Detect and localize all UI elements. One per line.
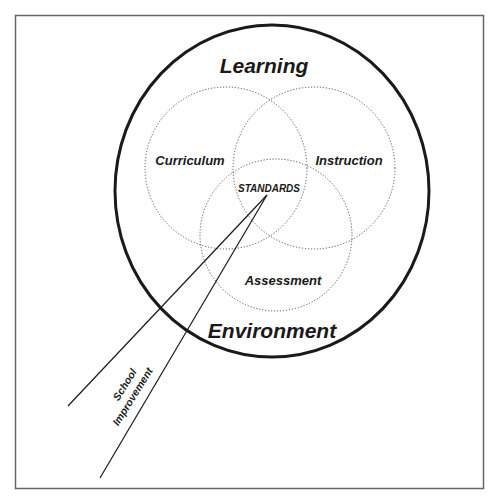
standards-label: STANDARDS (238, 183, 300, 194)
curriculum-circle (145, 87, 307, 249)
assessment-label: Assessment (244, 273, 322, 288)
instruction-label: Instruction (315, 153, 382, 168)
assessment-circle (200, 159, 352, 311)
curriculum-label: Curriculum (155, 153, 225, 168)
learning-environment-diagram: Learning Environment Curriculum Instruct… (0, 0, 499, 500)
school-improvement-label: School Improvement (99, 358, 155, 428)
environment-label: Environment (208, 319, 337, 342)
diagram-frame (16, 16, 484, 489)
learning-label: Learning (220, 54, 309, 77)
instruction-circle (233, 87, 395, 249)
